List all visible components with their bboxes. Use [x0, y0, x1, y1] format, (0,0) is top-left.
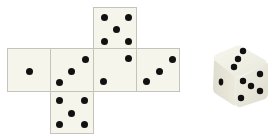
pip	[257, 71, 263, 77]
pip	[235, 56, 241, 62]
pip	[248, 83, 254, 89]
pip	[219, 79, 224, 86]
pip	[240, 48, 246, 54]
pip	[240, 78, 246, 84]
die-3d	[0, 0, 272, 136]
pip	[238, 95, 244, 101]
pip	[231, 64, 237, 70]
pip	[257, 88, 263, 94]
